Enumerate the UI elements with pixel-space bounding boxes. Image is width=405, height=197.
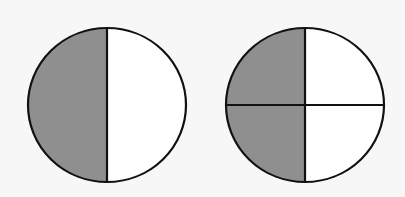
- shaded-quarter-bottom-left: [226, 105, 305, 182]
- unshaded-half: [107, 28, 186, 182]
- shaded-half: [28, 28, 107, 182]
- halves-circle: [28, 28, 186, 182]
- shaded-quarter-top-left: [226, 28, 305, 105]
- fraction-diagram: [0, 0, 405, 197]
- quarters-circle: [226, 28, 384, 182]
